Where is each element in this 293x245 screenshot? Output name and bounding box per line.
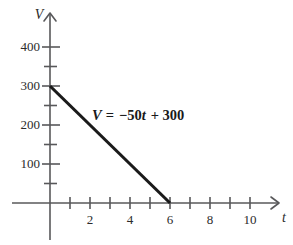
coordinate-plot: 400 300 200 100 2 4 6 8 10 V t V=−50t+ 3… xyxy=(0,0,293,245)
x-tick-label-8: 8 xyxy=(207,212,214,227)
y-tick-label-100: 100 xyxy=(21,156,41,171)
x-tick-label-10: 10 xyxy=(244,212,257,227)
equation-variable: t xyxy=(142,107,147,123)
equation-annotation: V=−50t+ 300 xyxy=(92,107,184,123)
equation-lhs: V xyxy=(92,107,103,123)
equation-equals: = xyxy=(106,107,114,123)
data-series-line xyxy=(50,86,170,203)
y-axis-label: V xyxy=(35,7,45,22)
y-tick-label-400: 400 xyxy=(21,39,41,54)
equation-coefficient: −50 xyxy=(119,107,142,123)
x-axis-label: t xyxy=(282,210,287,225)
y-tick-label-300: 300 xyxy=(21,78,41,93)
equation-constant: + 300 xyxy=(151,107,185,123)
x-tick-label-2: 2 xyxy=(87,212,94,227)
y-tick-label-200: 200 xyxy=(21,117,41,132)
x-tick-label-4: 4 xyxy=(127,212,134,227)
x-tick-label-6: 6 xyxy=(167,212,174,227)
svg-text:V=−50t+ 300: V=−50t+ 300 xyxy=(92,107,184,123)
graph-figure: 400 300 200 100 2 4 6 8 10 V t V=−50t+ 3… xyxy=(0,0,293,245)
